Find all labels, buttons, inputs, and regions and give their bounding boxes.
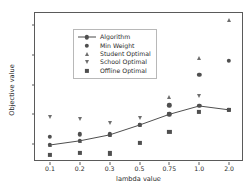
legend-item-student-optimal: Student Optimal <box>77 50 151 58</box>
data-point-min-weight <box>78 132 82 136</box>
data-point-min-weight <box>197 72 201 76</box>
x-tick-mark <box>139 162 140 165</box>
legend-label-algorithm: Algorithm <box>100 33 130 41</box>
x-tick-label: 0.2 <box>75 165 85 172</box>
x-tick-label: 0.75 <box>162 165 176 172</box>
legend-item-offline-optimal: Offline Optimal <box>77 67 151 75</box>
x-tick-label: 0.5 <box>135 165 145 172</box>
legend-marker-offline-optimal <box>77 67 97 75</box>
x-tick-mark <box>199 162 200 165</box>
legend-marker-min-weight <box>77 42 97 50</box>
data-point-offline-optimal <box>108 151 112 155</box>
chart-figure: Objective value lambda value 70080090010… <box>0 0 252 194</box>
x-tick-label: 0.3 <box>105 165 115 172</box>
legend-item-algorithm: Algorithm <box>77 33 151 41</box>
x-tick-mark <box>229 162 230 165</box>
data-point-student-optimal <box>167 95 171 99</box>
x-tick-mark <box>169 162 170 165</box>
legend-marker-school-optimal <box>77 58 97 66</box>
legend-label-school-optimal: School Optimal <box>100 58 147 66</box>
data-point-student-optimal <box>197 56 201 60</box>
data-point-min-weight <box>167 103 171 107</box>
x-tick-label: 2.0 <box>224 165 234 172</box>
legend-item-min-weight: Min Weight <box>77 41 151 49</box>
legend-marker-algorithm <box>77 33 97 41</box>
data-point-school-optimal <box>197 94 201 98</box>
legend-marker-student-optimal <box>77 50 97 58</box>
plot-area: 700800900100011000.10.20.30.50.751.02.0 … <box>34 12 243 161</box>
data-point-offline-optimal <box>78 151 82 155</box>
data-point-offline-optimal <box>167 130 171 134</box>
chart-legend: Algorithm Min Weight Student Optimal Sch… <box>73 29 157 79</box>
data-point-offline-optimal <box>137 141 141 145</box>
data-point-min-weight <box>48 134 52 138</box>
legend-label-student-optimal: Student Optimal <box>100 50 151 58</box>
data-point-min-weight <box>227 58 231 62</box>
data-point-school-optimal <box>138 116 142 120</box>
data-point-school-optimal <box>48 115 52 119</box>
x-tick-label: 1.0 <box>194 165 204 172</box>
legend-item-school-optimal: School Optimal <box>77 58 151 66</box>
x-tick-label: 0.1 <box>45 165 55 172</box>
data-point-algorithm <box>197 104 201 108</box>
legend-label-offline-optimal: Offline Optimal <box>100 67 147 75</box>
data-point-student-optimal <box>227 18 231 22</box>
data-point-school-optimal <box>78 117 82 121</box>
data-point-offline-optimal <box>48 153 52 157</box>
x-tick-mark <box>79 162 80 165</box>
x-tick-mark <box>49 162 50 165</box>
x-tick-mark <box>109 162 110 165</box>
data-point-offline-optimal <box>197 110 201 114</box>
y-axis-label: Objective value <box>8 50 16 130</box>
data-point-school-optimal <box>108 121 112 125</box>
x-axis-label: lambda value <box>34 175 243 183</box>
legend-label-min-weight: Min Weight <box>100 42 135 50</box>
